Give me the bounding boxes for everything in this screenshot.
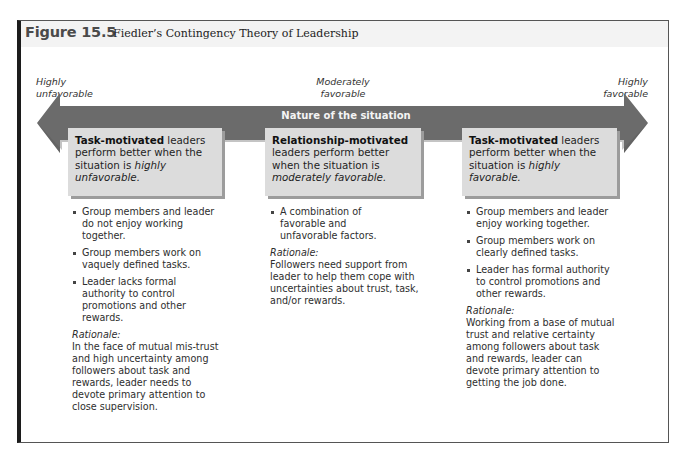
list-item: A combination of favorable and unfavorab… (270, 206, 380, 242)
column-middle: A combination of favorable and unfavorab… (270, 206, 420, 307)
column-left: Group members and leader do not enjoy wo… (72, 206, 222, 413)
rationale-text: Followers need support from leader to he… (270, 259, 420, 307)
rationale-label: Rationale: (72, 329, 222, 341)
rationale-text: Working from a base of mutual trust and … (466, 317, 616, 389)
list-item: Group members work on vaquely defined ta… (72, 247, 222, 271)
conditions-list: Group members and leader enjoy working t… (466, 206, 616, 300)
list-item: Group members and leader enjoy working t… (466, 206, 616, 230)
box-bold-text: Relationship-motivated (272, 134, 408, 146)
box-task-motivated-favorable: Task-motivated leaders perform better wh… (462, 128, 617, 196)
box-relationship-motivated: Relationship-motivated leaders perform b… (265, 128, 421, 196)
box-italic-text: moderately favorable. (272, 171, 386, 183)
list-item: Group members work on clearly defined ta… (466, 235, 616, 259)
box-text: leaders perform better when the situatio… (272, 146, 389, 170)
list-item: Group members and leader do not enjoy wo… (72, 206, 222, 242)
box-bold-text: Task-motivated (469, 134, 558, 146)
column-right: Group members and leader enjoy working t… (466, 206, 616, 389)
rationale-text: In the face of mutual mis-trust and high… (72, 341, 222, 413)
list-item: Leader has formal authority to control p… (466, 264, 616, 300)
conditions-list: Group members and leader do not enjoy wo… (72, 206, 222, 324)
list-item: Leader lacks formal authority to control… (72, 276, 222, 324)
rationale-label: Rationale: (466, 305, 616, 317)
conditions-list: A combination of favorable and unfavorab… (270, 206, 420, 242)
arrow-label: Nature of the situation (271, 110, 421, 121)
box-task-motivated-unfavorable: Task-motivated leaders perform better wh… (68, 128, 222, 196)
rationale-label: Rationale: (270, 247, 420, 259)
box-bold-text: Task-motivated (75, 134, 164, 146)
